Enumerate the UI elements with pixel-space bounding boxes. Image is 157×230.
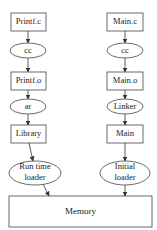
edge-runtime-loader-memory bbox=[43, 184, 49, 196]
build-pipeline-diagram: Printf.c cc Printf.o ar Library Run time… bbox=[0, 0, 157, 230]
node-cc-right-label: cc bbox=[121, 45, 129, 55]
node-initial-loader-label-line2: loader bbox=[114, 172, 135, 182]
node-initial-loader: Initial loader bbox=[100, 161, 150, 185]
node-main-c: Main.c bbox=[107, 13, 143, 31]
node-printf-o-label: Printf.o bbox=[16, 75, 42, 85]
node-ar-label: ar bbox=[25, 101, 32, 111]
node-library: Library bbox=[11, 125, 46, 143]
node-main-label: Main bbox=[116, 128, 135, 138]
node-cc-right: cc bbox=[107, 43, 143, 58]
node-main-c-label: Main.c bbox=[113, 16, 137, 26]
node-ar: ar bbox=[10, 99, 46, 114]
node-printf-o: Printf.o bbox=[11, 72, 46, 90]
node-runtime-loader: Run time loader bbox=[9, 161, 61, 185]
node-runtime-loader-label-line1: Run time bbox=[19, 161, 51, 171]
node-printf-c: Printf.c bbox=[11, 13, 46, 31]
node-main: Main bbox=[107, 125, 143, 143]
node-main-o: Main.o bbox=[107, 72, 143, 90]
node-library-label: Library bbox=[16, 128, 42, 138]
node-cc-left-label: cc bbox=[24, 45, 32, 55]
node-main-o-label: Main.o bbox=[113, 75, 137, 85]
node-linker: Linker bbox=[107, 99, 143, 114]
node-memory-label: Memory bbox=[65, 206, 96, 216]
node-runtime-loader-label-line2: loader bbox=[24, 172, 45, 182]
node-cc-left: cc bbox=[10, 43, 46, 58]
node-memory: Memory bbox=[9, 196, 152, 227]
node-initial-loader-label-line1: Initial bbox=[115, 161, 136, 171]
edge-library-runtime-loader bbox=[29, 143, 33, 161]
node-printf-c-label: Printf.c bbox=[16, 16, 41, 26]
node-linker-label: Linker bbox=[114, 101, 137, 111]
